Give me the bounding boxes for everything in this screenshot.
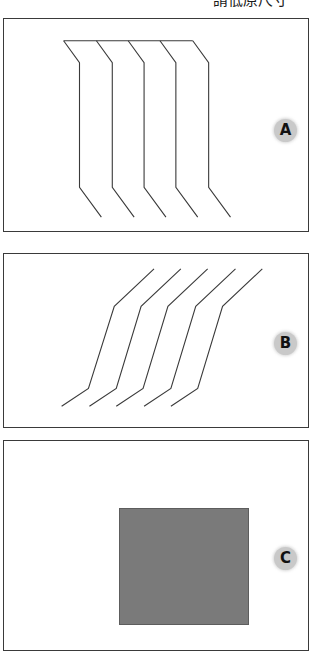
- polyline-B3: [116, 269, 207, 406]
- panel-a-badge: A: [274, 119, 297, 142]
- polyline-B2: [89, 269, 180, 406]
- polyline-B5: [171, 269, 262, 406]
- panel-b-badge: B: [274, 332, 297, 355]
- polyline-B1: [62, 269, 154, 406]
- gray-rectangle: [119, 508, 249, 625]
- figure-top-caption: 請低原尺寸: [213, 0, 318, 11]
- polyline-A3: [128, 41, 166, 217]
- panel-c: [3, 440, 309, 651]
- panel-b-drawing: [4, 254, 308, 427]
- panel-c-badge: C: [274, 547, 297, 570]
- polyline-A5: [193, 41, 231, 217]
- figure-canvas: 請低原尺寸 A B C: [0, 0, 318, 657]
- polyline-A4: [160, 41, 198, 217]
- panel-a-drawing: [4, 19, 308, 231]
- polyline-A2: [96, 41, 134, 217]
- panel-b: [3, 253, 309, 428]
- panel-a: [3, 18, 309, 232]
- polyline-B4: [144, 269, 235, 406]
- polyline-A1: [64, 41, 102, 217]
